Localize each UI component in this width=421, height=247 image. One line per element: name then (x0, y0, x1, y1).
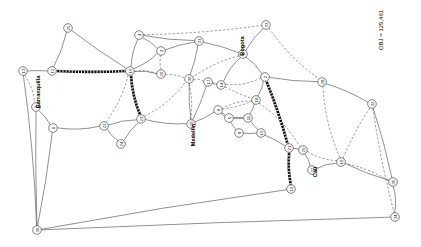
graph-edge (393, 186, 395, 212)
graph-node[interactable]: 12 (48, 67, 57, 76)
graph-node[interactable]: 13 (19, 67, 28, 76)
graph-node[interactable]: 8 (235, 129, 244, 138)
graph-node[interactable]: 34 (391, 213, 400, 222)
graph-node[interactable]: 19 (337, 158, 346, 167)
graph-edge (134, 53, 158, 68)
graph-node[interactable]: 18 (252, 96, 261, 105)
graph-edge (145, 119, 186, 123)
graph-edge (57, 126, 99, 129)
graph-node[interactable]: 33 (262, 21, 271, 30)
graph-edge (225, 78, 261, 85)
node-label: 34 (393, 214, 398, 219)
node-label: 18 (254, 97, 259, 102)
graph-edge (345, 164, 389, 181)
graph-edge (41, 217, 390, 230)
graph-edge (107, 129, 118, 141)
graph-node[interactable]: 14 (217, 81, 226, 90)
graph-node[interactable]: 21 (285, 144, 294, 153)
node-label: 21 (287, 145, 292, 150)
graph-node[interactable]: 9 (214, 106, 223, 115)
graph-edge (233, 117, 243, 118)
city-label: Bogota (239, 35, 245, 55)
graph-node[interactable]: 10 (126, 67, 135, 76)
city-label: Cali (312, 166, 318, 177)
network-diagram-canvas: 1376122522242310432631302917141332189511… (0, 0, 421, 247)
graph-node[interactable]: 11 (244, 114, 253, 123)
graph-node[interactable]: 3 (157, 47, 166, 56)
objective-annotation-layer: OBJ = 125,461 (378, 9, 384, 50)
graph-node[interactable]: 4 (135, 31, 144, 40)
graph-edge (307, 151, 337, 160)
graph-edge (222, 101, 252, 109)
graph-edge (165, 42, 195, 50)
node-label: 11 (246, 115, 251, 120)
graph-edge (246, 57, 262, 74)
graph-edge (269, 77, 317, 81)
graph-node[interactable]: 25 (64, 24, 73, 33)
graph-node[interactable]: 26 (157, 70, 166, 79)
graph-edge (233, 118, 243, 119)
graph-node[interactable]: 17 (204, 78, 213, 87)
graph-edge (203, 42, 239, 53)
node-label: 13 (21, 68, 26, 73)
graph-edge (373, 108, 392, 178)
graph-edge (258, 81, 264, 96)
graph-edge (222, 101, 252, 109)
node-label: 16 (289, 186, 294, 191)
graph-edge (225, 87, 252, 99)
node-label: 22 (102, 123, 107, 128)
graph-edge (165, 75, 185, 79)
graph-edge (195, 112, 214, 122)
graph-node[interactable]: 35 (389, 178, 398, 187)
graph-edge (72, 30, 127, 68)
graph-edge (24, 75, 34, 103)
node-label: 30 (187, 76, 192, 81)
node-label: 10 (128, 68, 133, 73)
graph-edge (108, 120, 137, 125)
graph-node[interactable]: 28 (318, 78, 327, 87)
graph-edge (143, 25, 261, 34)
graph-node[interactable]: 32 (368, 100, 377, 109)
nodes-layer: 1376122522242310432631302917141332189511… (19, 21, 400, 235)
graph-node[interactable]: 16 (287, 185, 296, 194)
graph-edge (305, 154, 310, 166)
graph-edge (131, 39, 138, 67)
graph-node[interactable]: 36 (33, 226, 42, 235)
graph-edge (345, 164, 389, 181)
graph-node[interactable]: 5 (225, 114, 234, 123)
node-label: 26 (159, 71, 164, 76)
graph-node[interactable]: 24 (117, 140, 126, 149)
graph-node[interactable]: 20 (299, 146, 308, 155)
graph-edge (190, 45, 198, 75)
network-graph-svg: 1376122522242310432631302917141332189511… (0, 0, 421, 247)
graph-edge (134, 71, 156, 73)
graph-node[interactable]: 2 (261, 73, 270, 82)
graph-edge (265, 135, 285, 146)
graph-node[interactable]: 22 (100, 122, 109, 131)
graph-node[interactable]: 15 (257, 129, 266, 138)
dashed-edges-layer (24, 25, 394, 212)
node-label: 24 (119, 141, 124, 146)
graph-node[interactable]: 31 (195, 37, 204, 46)
node-label: 20 (301, 147, 306, 152)
node-label: 28 (320, 79, 325, 84)
node-label: 15 (259, 130, 264, 135)
node-label: 19 (339, 159, 344, 164)
graph-edge (246, 28, 264, 50)
node-label: 36 (35, 227, 40, 232)
graph-edge (38, 132, 53, 226)
node-label: 14 (219, 82, 224, 87)
graph-edge (243, 133, 256, 134)
graph-node[interactable]: 30 (185, 75, 194, 84)
city-label: Medellin (190, 123, 196, 146)
graph-edge (316, 163, 337, 169)
graph-edge (39, 110, 51, 124)
graph-node[interactable]: 23 (137, 115, 146, 124)
graph-edge (54, 32, 67, 67)
graph-edge (193, 79, 204, 81)
city-label: Barranquilla (35, 75, 41, 109)
graph-node[interactable]: 6 (49, 124, 58, 133)
graph-edge (269, 28, 319, 79)
solid-edges-layer (23, 28, 395, 229)
node-label: 17 (206, 79, 211, 84)
